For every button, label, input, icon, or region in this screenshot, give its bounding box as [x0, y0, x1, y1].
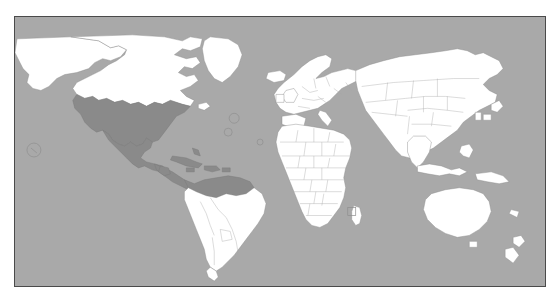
country-puerto-rico [222, 168, 230, 172]
map-frame: .ocean { fill: #a9a9a9; } .land { fill: … [14, 16, 546, 287]
country-tasmania [469, 241, 477, 247]
country-japan-south [483, 114, 491, 120]
world-map-figure: .ocean { fill: #a9a9a9; } .land { fill: … [0, 0, 559, 300]
country-jamaica [186, 168, 194, 172]
country-ireland [276, 94, 284, 102]
world-map-svg: .ocean { fill: #a9a9a9; } .land { fill: … [15, 17, 545, 286]
country-korea [475, 112, 481, 120]
